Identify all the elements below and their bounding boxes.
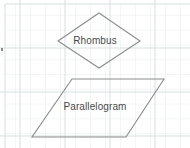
shapes-layer	[0, 0, 190, 148]
left-edge-mark	[1, 48, 3, 51]
figure-canvas: Rhombus Parallelogram	[0, 0, 190, 148]
rhombus-label: Rhombus	[0, 35, 190, 46]
parallelogram-label: Parallelogram	[0, 101, 190, 112]
